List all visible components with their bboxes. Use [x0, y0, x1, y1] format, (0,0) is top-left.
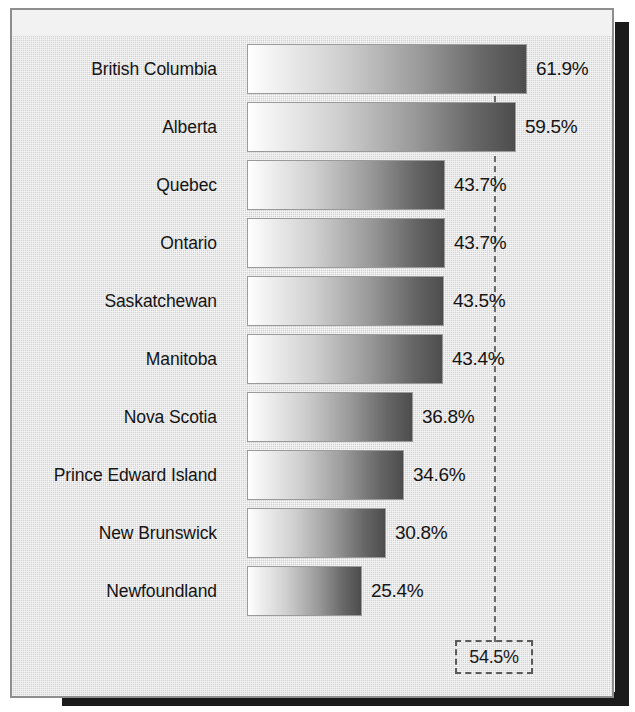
category-label: Saskatchewan: [104, 276, 217, 326]
panel-shadow-right: [615, 22, 629, 706]
bar: [247, 160, 445, 210]
bar-row: Alberta59.5%: [12, 102, 612, 152]
category-label: Manitoba: [146, 334, 217, 384]
bar: [247, 508, 386, 558]
bar: [247, 566, 362, 616]
reference-value-box: 54.5%: [455, 640, 533, 674]
bar-row: Saskatchewan43.5%: [12, 276, 612, 326]
bar-row: Ontario43.7%: [12, 218, 612, 268]
reference-value-label: 54.5%: [469, 647, 519, 668]
bar-row: Nova Scotia36.8%: [12, 392, 612, 442]
category-label: Newfoundland: [106, 566, 217, 616]
bar-row: British Columbia61.9%: [12, 44, 612, 94]
chart-frame: British Columbia61.9%Alberta59.5%Quebec4…: [10, 8, 614, 698]
bar-value-label: 34.6%: [413, 450, 465, 500]
bar: [247, 450, 404, 500]
bar: [247, 44, 527, 94]
bar-value-label: 43.7%: [454, 160, 506, 210]
bar-row: New Brunswick30.8%: [12, 508, 612, 558]
category-label: Quebec: [156, 160, 217, 210]
bar: [247, 276, 444, 326]
category-label: Ontario: [160, 218, 217, 268]
plot-area: British Columbia61.9%Alberta59.5%Quebec4…: [12, 10, 612, 696]
bar-value-label: 36.8%: [422, 392, 474, 442]
bar-value-label: 30.8%: [395, 508, 447, 558]
bar-value-label: 43.5%: [453, 276, 505, 326]
bar-row: Newfoundland25.4%: [12, 566, 612, 616]
bar-value-label: 61.9%: [536, 44, 588, 94]
bar: [247, 392, 413, 442]
bar: [247, 102, 516, 152]
category-label: British Columbia: [91, 44, 217, 94]
category-label: Nova Scotia: [124, 392, 217, 442]
bar-value-label: 59.5%: [525, 102, 577, 152]
category-label: New Brunswick: [99, 508, 217, 558]
bar-row: Prince Edward Island34.6%: [12, 450, 612, 500]
bar-value-label: 25.4%: [371, 566, 423, 616]
chart-page: British Columbia61.9%Alberta59.5%Quebec4…: [0, 0, 635, 712]
bar: [247, 218, 445, 268]
bar: [247, 334, 443, 384]
category-label: Alberta: [162, 102, 217, 152]
bar-row: Manitoba43.4%: [12, 334, 612, 384]
category-label: Prince Edward Island: [54, 450, 217, 500]
bar-row: Quebec43.7%: [12, 160, 612, 210]
bar-value-label: 43.7%: [454, 218, 506, 268]
bar-value-label: 43.4%: [452, 334, 504, 384]
